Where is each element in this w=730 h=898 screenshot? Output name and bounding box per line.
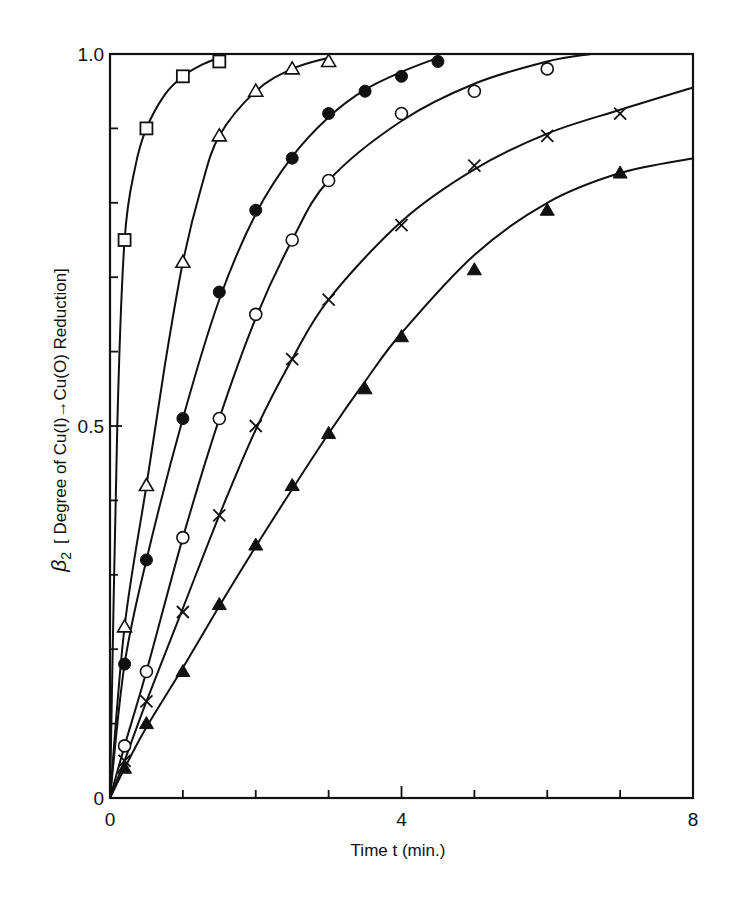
x-axis-title: Time t (min.)	[351, 841, 446, 860]
marker-triangle-filled	[322, 426, 336, 438]
marker-triangle-filled	[176, 665, 190, 677]
y-tick-label: 0	[93, 788, 104, 809]
curve-filled-triangles	[110, 158, 693, 798]
marker-cross	[286, 353, 298, 365]
marker-square-open	[140, 122, 152, 134]
marker-circle-open	[119, 740, 131, 752]
marker-triangle-open	[212, 129, 226, 141]
marker-cross	[140, 695, 152, 707]
y-axis-symbol: β	[47, 560, 70, 573]
marker-circle-filled	[250, 204, 262, 216]
x-tick-label: 0	[105, 809, 116, 830]
marker-triangle-open	[139, 479, 153, 491]
axis-ticks	[110, 54, 693, 798]
marker-circle-filled	[177, 413, 189, 425]
plot-frame	[110, 54, 693, 798]
svg-text:β2[ Degree of Cu(I)→Cu(O) Redu: β2[ Degree of Cu(I)→Cu(O) Reduction]	[47, 268, 74, 573]
curve-open-squares	[110, 58, 219, 798]
marker-circle-filled	[140, 554, 152, 566]
y-axis-label-text: [ Degree of Cu(I)→Cu(O) Reduction]	[51, 268, 70, 544]
marker-circle-open	[286, 234, 298, 246]
marker-circle-filled	[286, 152, 298, 164]
plot-border	[110, 54, 693, 798]
marker-triangle-filled	[467, 263, 481, 275]
marker-triangle-open	[118, 620, 132, 632]
marker-triangle-open	[322, 54, 336, 66]
marker-circle-open	[396, 108, 408, 120]
marker-circle-filled	[323, 108, 335, 120]
marker-triangle-open	[176, 255, 190, 267]
marker-circle-open	[140, 666, 152, 678]
marker-circle-filled	[119, 658, 131, 670]
curve-crosses	[110, 87, 693, 798]
marker-circle-filled	[396, 70, 408, 82]
data-markers	[118, 54, 628, 773]
y-tick-label: 0.5	[78, 416, 104, 437]
marker-square-open	[119, 234, 131, 246]
marker-circle-filled	[359, 85, 371, 97]
marker-cross	[213, 509, 225, 521]
y-tick-label: 1.0	[78, 44, 104, 65]
marker-circle-open	[468, 85, 480, 97]
fitted-curves	[110, 54, 693, 798]
x-tick-label: 8	[688, 809, 699, 830]
curve-open-circles	[110, 54, 591, 798]
marker-circle-open	[213, 413, 225, 425]
x-tick-label: 4	[396, 809, 407, 830]
marker-circle-filled	[213, 286, 225, 298]
marker-triangle-filled	[395, 330, 409, 342]
marker-circle-open	[250, 308, 262, 320]
tick-labels: 04800.51.0	[78, 44, 699, 830]
curve-filled-circles	[110, 58, 438, 798]
marker-circle-open	[323, 174, 335, 186]
y-axis-subscript: 2	[58, 552, 74, 560]
marker-circle-open	[541, 63, 553, 75]
chart: 04800.51.0 Time t (min.) β2[ Degree of C…	[0, 0, 730, 898]
marker-circle-open	[177, 532, 189, 544]
marker-circle-filled	[432, 55, 444, 67]
marker-square-open	[213, 55, 225, 67]
marker-cross	[323, 294, 335, 306]
marker-square-open	[177, 70, 189, 82]
y-axis-title: β2[ Degree of Cu(I)→Cu(O) Reduction]	[47, 268, 74, 573]
